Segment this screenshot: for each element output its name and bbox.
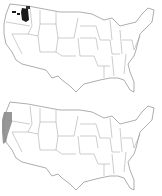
us-map-top: [0, 0, 162, 98]
us-map-bottom: [0, 98, 162, 196]
map-panel-bottom: [0, 98, 162, 196]
map-panel-top: [0, 0, 162, 98]
